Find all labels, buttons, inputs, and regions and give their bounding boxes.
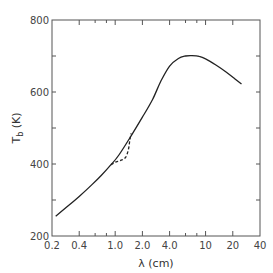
y-tick-label: 600 (30, 87, 49, 98)
svg-text:Tb (K): Tb (K) (10, 112, 25, 144)
y-ticks: 200400600800 (30, 15, 260, 242)
x-tick-label: 0.4 (71, 240, 87, 251)
x-tick-label: 2.0 (134, 240, 150, 251)
series-solid-line (56, 56, 242, 217)
x-tick-label: 20 (226, 240, 239, 251)
y-tick-label: 800 (30, 15, 49, 26)
y-tick-label: 400 (30, 159, 49, 170)
y-tick-label: 200 (30, 231, 49, 242)
x-tick-label: 40 (254, 240, 267, 251)
plot-frame (52, 20, 260, 236)
x-ticks: 0.20.41.02.04.0102040 (44, 20, 266, 251)
y-axis-label: Tb (K) (10, 112, 25, 144)
series-dashed-line (111, 133, 131, 164)
x-tick-label: 10 (199, 240, 212, 251)
chart: 0.20.41.02.04.0102040 200400600800 λ (cm… (0, 0, 273, 273)
data-lines (56, 56, 242, 217)
x-tick-label: 1.0 (107, 240, 123, 251)
x-axis-label: λ (cm) (138, 257, 173, 270)
x-tick-label: 4.0 (162, 240, 178, 251)
